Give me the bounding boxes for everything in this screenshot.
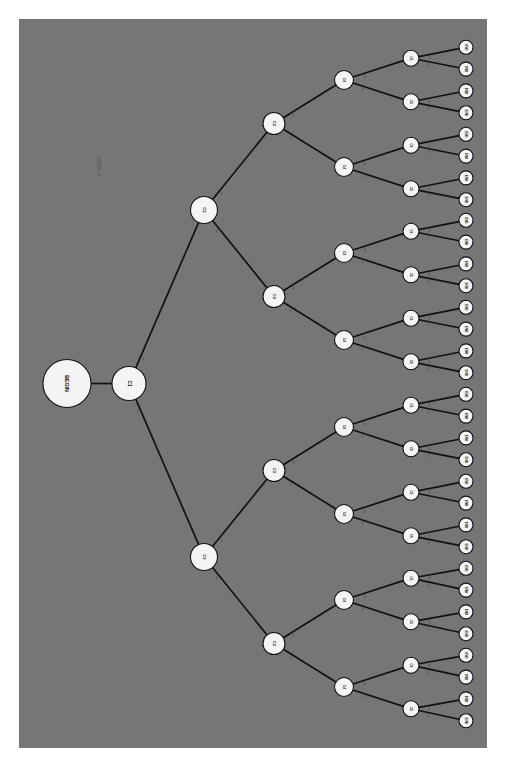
tree-node-c5[interactable]: C5 <box>403 50 419 66</box>
edge-label: Yes <box>220 538 223 543</box>
tree-node-c4[interactable]: C4 <box>335 244 354 263</box>
node-label: END <box>464 197 468 204</box>
tree-node-end[interactable]: END <box>459 605 473 619</box>
tree-node-c3[interactable]: C3 <box>263 286 285 308</box>
tree-node-c5[interactable]: C5 <box>403 701 419 717</box>
diagram-title-layer: MOD: A <box>96 157 102 177</box>
tree-node-end[interactable]: END <box>459 106 473 120</box>
edge-label: No <box>136 410 139 414</box>
tree-edge <box>283 605 336 638</box>
tree-node-c5[interactable]: C5 <box>403 484 419 500</box>
tree-node-c2[interactable]: C2 <box>191 544 218 571</box>
tree-node-end[interactable]: END <box>459 431 473 445</box>
tree-edge <box>419 439 459 447</box>
tree-node-end[interactable]: END <box>459 692 473 706</box>
tree-node-end[interactable]: END <box>459 322 473 336</box>
tree-node-end[interactable]: END <box>459 279 473 293</box>
tree-node-end[interactable]: END <box>459 583 473 597</box>
tree-node-end[interactable]: END <box>459 366 473 380</box>
tree-node-c4[interactable]: C4 <box>335 591 354 610</box>
tree-node-c4[interactable]: C4 <box>335 71 354 90</box>
tree-node-c1[interactable]: C1 <box>112 367 146 401</box>
tree-node-end[interactable]: END <box>459 409 473 423</box>
tree-node-begin[interactable]: BEGIN <box>43 360 91 408</box>
tree-node-c5[interactable]: C5 <box>403 570 419 586</box>
tree-node-end[interactable]: END <box>459 518 473 532</box>
edge-label: Yes <box>428 446 431 451</box>
tree-node-c4[interactable]: C4 <box>335 331 354 350</box>
tree-node-c5[interactable]: C5 <box>403 397 419 413</box>
tree-node-end[interactable]: END <box>459 84 473 98</box>
edge-label: Yes <box>428 99 431 104</box>
node-label: C5 <box>409 273 413 277</box>
tree-edge <box>353 603 403 619</box>
tree-node-c5[interactable]: C5 <box>403 528 419 544</box>
tree-edge <box>419 103 459 111</box>
tree-node-end[interactable]: END <box>459 300 473 314</box>
tree-node-end[interactable]: END <box>459 127 473 141</box>
tree-node-end[interactable]: END <box>459 648 473 662</box>
tree-node-end[interactable]: END <box>459 540 473 554</box>
tree-edge <box>419 49 459 57</box>
tree-node-end[interactable]: END <box>459 62 473 76</box>
tree-node-c5[interactable]: C5 <box>403 441 419 457</box>
tree-edge <box>419 407 459 415</box>
node-label: END <box>464 239 468 246</box>
node-label: C5 <box>409 56 413 60</box>
tree-node-c4[interactable]: C4 <box>335 418 354 437</box>
tree-node-end[interactable]: END <box>459 453 473 467</box>
tree-node-end[interactable]: END <box>459 627 473 641</box>
tree-node-c5[interactable]: C5 <box>403 657 419 673</box>
edge-label: Yes <box>428 707 431 712</box>
tree-node-end[interactable]: END <box>459 257 473 271</box>
edge-label: No <box>427 323 430 327</box>
tree-node-c3[interactable]: C3 <box>263 633 285 655</box>
tree-node-c5[interactable]: C5 <box>403 223 419 239</box>
tree-node-c4[interactable]: C4 <box>335 505 354 524</box>
tree-node-c4[interactable]: C4 <box>335 678 354 697</box>
edge-label: No <box>289 309 292 313</box>
tree-node-end[interactable]: END <box>459 344 473 358</box>
tree-node-c5[interactable]: C5 <box>403 354 419 370</box>
tree-node-end[interactable]: END <box>459 193 473 207</box>
tree-node-c5[interactable]: C5 <box>403 94 419 110</box>
tree-edge <box>419 494 459 502</box>
tree-node-c5[interactable]: C5 <box>403 137 419 153</box>
edge-label: No <box>215 576 218 580</box>
edge-label: No <box>427 150 430 154</box>
node-label: C4 <box>342 512 346 517</box>
node-label: C5 <box>409 707 413 711</box>
node-label: C5 <box>409 143 413 147</box>
tree-node-c3[interactable]: C3 <box>263 113 285 135</box>
tree-node-end[interactable]: END <box>459 496 473 510</box>
tree-node-end[interactable]: END <box>459 714 473 728</box>
tree-node-c5[interactable]: C5 <box>403 614 419 630</box>
tree-node-c3[interactable]: C3 <box>263 460 285 482</box>
tree-edge <box>419 190 459 198</box>
tree-node-c5[interactable]: C5 <box>403 267 419 283</box>
tree-node-c4[interactable]: C4 <box>335 158 354 177</box>
node-label: C4 <box>342 78 346 83</box>
node-label: END <box>464 326 468 333</box>
node-label: END <box>464 153 468 160</box>
tree-node-end[interactable]: END <box>459 40 473 54</box>
tree-edge <box>419 233 459 241</box>
tree-node-end[interactable]: END <box>459 387 473 401</box>
tree-node-end[interactable]: END <box>459 561 473 575</box>
tree-node-end[interactable]: END <box>459 213 473 227</box>
tree-node-end[interactable]: END <box>459 474 473 488</box>
edge-label: Yes <box>220 191 223 196</box>
tree-node-end[interactable]: END <box>459 171 473 185</box>
edge-label: Yes <box>428 403 431 408</box>
tree-edge <box>212 567 267 634</box>
tree-node-c2[interactable]: C2 <box>191 197 218 224</box>
tree-node-end[interactable]: END <box>459 670 473 684</box>
tree-node-end[interactable]: END <box>459 149 473 163</box>
node-label: END <box>464 110 468 117</box>
edge-label: Yes <box>428 663 431 668</box>
tree-node-c5[interactable]: C5 <box>403 310 419 326</box>
tree-node-end[interactable]: END <box>459 235 473 249</box>
edge-label: No <box>361 88 364 92</box>
tree-node-c5[interactable]: C5 <box>403 181 419 197</box>
node-label: END <box>464 435 468 442</box>
